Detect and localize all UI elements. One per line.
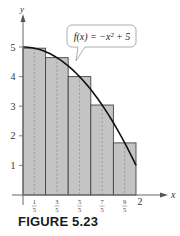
x-axis-arrow-icon bbox=[160, 193, 168, 198]
x-tick-denominator: 5 bbox=[78, 206, 81, 213]
x-tick-denominator: 5 bbox=[33, 206, 36, 213]
y-ticks: 12345 bbox=[11, 42, 24, 171]
figure-caption: FIGURE 5.23 bbox=[18, 214, 98, 229]
riemann-sum-chart: y x 12345 15355575952 f(x) = −x² + 5 bbox=[0, 0, 180, 236]
x-tick-label: 2 bbox=[138, 196, 143, 207]
x-tick-denominator: 5 bbox=[55, 206, 58, 213]
x-tick-numerator: 1 bbox=[33, 198, 36, 205]
y-tick-label: 5 bbox=[11, 42, 16, 53]
function-label: f(x) = −x² + 5 bbox=[74, 31, 131, 43]
x-tick-numerator: 5 bbox=[78, 198, 81, 205]
x-ticks: 15355575952 bbox=[32, 196, 143, 213]
function-label-callout: f(x) = −x² + 5 bbox=[67, 25, 136, 61]
y-axis-label: y bbox=[19, 4, 24, 14]
y-axis-arrow-icon bbox=[21, 14, 26, 22]
x-axis-label: x bbox=[170, 189, 176, 200]
y-tick-label: 4 bbox=[11, 71, 16, 82]
x-tick-numerator: 7 bbox=[100, 198, 104, 205]
x-tick-denominator: 5 bbox=[123, 206, 126, 213]
y-tick-label: 3 bbox=[11, 101, 16, 112]
y-tick-label: 1 bbox=[11, 160, 16, 171]
x-tick-numerator: 9 bbox=[123, 198, 126, 205]
x-tick-denominator: 5 bbox=[100, 206, 103, 213]
y-tick-label: 2 bbox=[11, 130, 16, 141]
x-tick-numerator: 3 bbox=[55, 198, 58, 205]
